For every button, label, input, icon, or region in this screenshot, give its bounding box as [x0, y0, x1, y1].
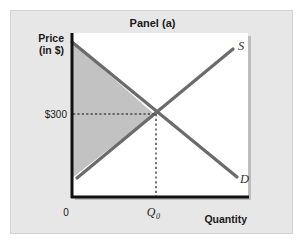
demand-curve-label: D	[239, 172, 249, 186]
x-tick-label-q0: Q	[147, 205, 156, 219]
origin-label: 0	[63, 207, 69, 218]
y-tick-label-300: $300	[45, 109, 68, 120]
chart-svg: Price (in $) $300 0 Q 0 Quantity S D	[11, 11, 294, 235]
y-axis-label-line2: (in $)	[39, 44, 64, 56]
supply-demand-chart: Price (in $) $300 0 Q 0 Quantity S D	[11, 11, 294, 235]
figure-panel: Panel (a)	[10, 10, 293, 234]
x-tick-label-q0-subscript: 0	[156, 212, 160, 221]
scan-artifact-text	[0, 0, 303, 9]
y-axis-label-line1: Price	[38, 32, 64, 44]
supply-curve-label: S	[238, 39, 245, 53]
x-axis-label: Quantity	[204, 213, 247, 225]
